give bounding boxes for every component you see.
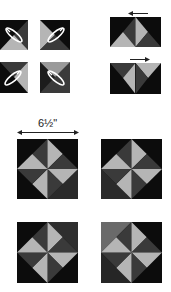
pressed-unit-1 (0, 20, 28, 50)
block-1 (17, 139, 78, 199)
arrow-left-icon (128, 11, 148, 16)
pressed-unit-4 (40, 62, 70, 93)
block-2 (101, 139, 162, 199)
row-unit-2 (110, 63, 161, 94)
arrow-right-icon (130, 57, 150, 62)
measurement-arrow-icon (17, 130, 79, 135)
pressed-unit-3 (0, 62, 28, 93)
row-unit-1 (110, 17, 161, 47)
block-3 (17, 222, 78, 283)
measurement-label: 6½" (25, 117, 70, 129)
block-4 (101, 222, 162, 283)
pressed-unit-2 (40, 20, 70, 50)
